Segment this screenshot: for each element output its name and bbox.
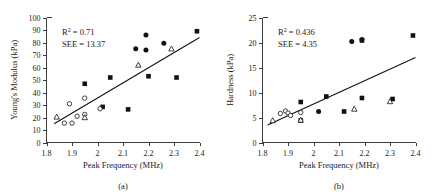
data-point-filled-square — [195, 29, 200, 34]
data-point-filled-circle — [359, 37, 364, 42]
data-point-open-circle — [288, 113, 292, 117]
data-point-filled-square — [82, 81, 87, 86]
x-tick-label: 1.8 — [42, 149, 52, 158]
data-point-open-triangle — [270, 118, 275, 123]
data-point-open-circle — [70, 121, 74, 125]
panel-b-see: SEE = 4.35 — [278, 39, 317, 49]
x-tick-label: 2.4 — [195, 149, 205, 158]
data-point-open-circle — [299, 110, 303, 114]
data-point-open-circle — [83, 96, 87, 100]
y-tick-label: 0 — [37, 139, 41, 148]
panel-b-plot: 0510152025 1.81.922.12.22.32.4 Hardness … — [216, 0, 432, 195]
data-point-filled-square — [342, 109, 347, 114]
panel-a-y-ticks: 0102030405060708090100 — [29, 14, 47, 148]
y-tick-label: 10 — [33, 126, 41, 135]
x-tick-label: 1.9 — [67, 149, 77, 158]
panel-a-see: SEE = 13.37 — [62, 39, 105, 49]
data-point-filled-circle — [316, 109, 321, 114]
data-point-filled-circle — [143, 48, 148, 53]
data-point-open-triangle — [136, 62, 141, 67]
panel-b-axes — [263, 18, 416, 143]
x-tick-label: 2 — [96, 149, 100, 158]
panel-b: 0510152025 1.81.922.12.22.32.4 Hardness … — [216, 0, 432, 195]
y-tick-label: 40 — [33, 89, 41, 98]
panel-b-y-axis-title: Hardness (kPa) — [225, 54, 235, 106]
panel-a-plot: 0102030405060708090100 1.81.922.12.22.32… — [0, 0, 216, 195]
data-point-filled-square — [411, 33, 416, 38]
x-tick-label: 2 — [312, 149, 316, 158]
y-tick-label: 60 — [33, 64, 41, 73]
data-point-filled-circle — [133, 46, 138, 51]
data-point-open-circle — [75, 114, 79, 118]
x-tick-label: 2.1 — [334, 149, 344, 158]
data-point-open-circle — [98, 107, 102, 111]
y-tick-label: 70 — [33, 51, 41, 60]
x-tick-label: 1.8 — [258, 149, 268, 158]
data-point-open-circle — [62, 121, 66, 125]
y-tick-label: 20 — [33, 114, 41, 123]
panel-a-caption: (a) — [118, 181, 128, 191]
panel-a-x-axis-title: Peak Frequency (MHz) — [83, 160, 163, 170]
panel-a: 0102030405060708090100 1.81.922.12.22.32… — [0, 0, 216, 195]
panel-b-r-squared: R2 = 0.436 — [278, 27, 315, 37]
data-point-open-triangle — [169, 46, 174, 51]
x-tick-label: 2.2 — [144, 149, 154, 158]
data-point-filled-square — [108, 75, 113, 80]
y-tick-label: 30 — [33, 101, 41, 110]
y-tick-label: 90 — [33, 26, 41, 35]
data-point-filled-square — [324, 94, 329, 99]
data-point-filled-square — [174, 75, 179, 80]
x-tick-label: 1.9 — [283, 149, 293, 158]
y-tick-label: 20 — [249, 39, 257, 48]
y-tick-label: 0 — [253, 139, 257, 148]
panel-a-x-ticks: 1.81.922.12.22.32.4 — [42, 143, 205, 158]
panel-a-axis-frame — [47, 18, 200, 143]
panel-a-axes — [47, 18, 200, 143]
y-tick-label: 25 — [249, 14, 257, 23]
panel-b-caption: (b) — [334, 181, 344, 191]
y-tick-label: 100 — [29, 14, 41, 23]
data-point-filled-circle — [349, 39, 354, 44]
figure-container: 0102030405060708090100 1.81.922.12.22.32… — [0, 0, 432, 195]
y-tick-label: 50 — [33, 76, 41, 85]
panel-b-x-ticks: 1.81.922.12.22.32.4 — [258, 143, 421, 158]
data-point-open-circle — [278, 111, 282, 115]
panel-b-axis-frame — [263, 18, 416, 143]
data-point-open-triangle — [352, 106, 357, 111]
panel-b-y-ticks: 0510152025 — [249, 14, 263, 148]
data-point-filled-circle — [143, 33, 148, 38]
panel-a-r-squared: R2 = 0.71 — [62, 27, 95, 37]
y-tick-label: 80 — [33, 39, 41, 48]
data-point-filled-square — [298, 100, 303, 105]
x-tick-label: 2.2 — [360, 149, 370, 158]
data-point-filled-square — [360, 96, 365, 101]
data-point-open-triangle — [54, 114, 59, 119]
y-tick-label: 15 — [249, 64, 257, 73]
data-point-filled-square — [126, 107, 131, 112]
x-tick-label: 2.3 — [169, 149, 179, 158]
x-tick-label: 2.3 — [385, 149, 395, 158]
panel-b-x-axis-title: Peak Frequency (MHz) — [299, 160, 379, 170]
x-tick-label: 2.1 — [118, 149, 128, 158]
data-point-filled-square — [146, 74, 151, 79]
y-tick-label: 5 — [253, 114, 257, 123]
data-point-filled-circle — [161, 41, 166, 46]
data-point-open-circle — [67, 102, 71, 106]
panel-a-y-axis-title: Young's Modulus (kPa) — [9, 40, 19, 120]
y-tick-label: 10 — [249, 89, 257, 98]
x-tick-label: 2.4 — [411, 149, 421, 158]
